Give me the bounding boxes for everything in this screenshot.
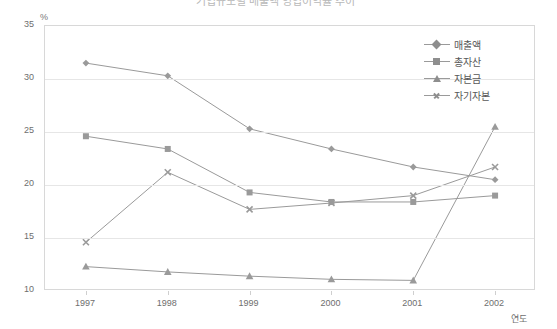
x-axis-tick-label: 2002 — [474, 298, 514, 308]
diamond-marker — [328, 146, 335, 153]
square-marker — [247, 189, 253, 195]
square-marker — [165, 146, 171, 152]
diamond-marker — [492, 176, 499, 183]
chart-root: 기업규모별 매출액 영업이익률 추이 % 101520253035 199719… — [0, 0, 557, 329]
legend-label: 매출액 — [450, 37, 481, 52]
diamond-icon — [424, 39, 450, 50]
y-axis-tick-label: 35 — [8, 19, 34, 29]
x-axis-tick-label: 1998 — [147, 298, 187, 308]
diamond-marker — [410, 164, 417, 171]
x-axis-tick-label: 1999 — [229, 298, 269, 308]
diamond-marker — [83, 60, 90, 67]
x-axis-tick-label: 1997 — [65, 298, 105, 308]
legend-label: 총자산 — [450, 54, 481, 69]
series-triangle — [82, 123, 499, 284]
series-x — [83, 164, 498, 245]
gridline — [45, 238, 534, 239]
x-axis-tick — [413, 291, 414, 295]
x-icon — [424, 90, 450, 101]
y-axis-tick-label: 20 — [8, 178, 34, 188]
legend-label: 자기자본 — [450, 88, 490, 103]
gridline — [45, 185, 534, 186]
triangle-icon — [424, 73, 450, 84]
x-marker — [492, 164, 498, 170]
legend-label: 자본금 — [450, 71, 481, 86]
x-axis-tick-label: 2000 — [310, 298, 350, 308]
y-axis-tick-label: 30 — [8, 72, 34, 82]
legend-item-maechulaek[interactable]: 매출액 — [424, 36, 532, 53]
legend-item-jabongeum[interactable]: 자본금 — [424, 70, 532, 87]
series-line — [86, 167, 495, 242]
triangle-marker — [82, 263, 90, 270]
square-marker — [83, 133, 89, 139]
series-square — [83, 133, 498, 205]
x-marker — [165, 169, 171, 175]
chart-title-clipped: 기업규모별 매출액 영업이익률 추이 — [0, 0, 557, 8]
y-axis-tick-label: 10 — [8, 284, 34, 294]
x-axis-tick — [86, 291, 87, 295]
y-axis-tick-label: 15 — [8, 231, 34, 241]
square-marker — [410, 199, 416, 205]
y-axis-tick-label: 25 — [8, 125, 34, 135]
legend-item-jagijabon[interactable]: 자기자본 — [424, 87, 532, 104]
x-axis-name: 연도 — [511, 312, 527, 325]
x-axis-tick — [168, 291, 169, 295]
square-icon — [424, 56, 450, 67]
series-line — [86, 136, 495, 202]
y-axis-unit-label: % — [40, 12, 48, 22]
x-axis-tick — [495, 291, 496, 295]
triangle-marker — [491, 123, 499, 130]
series-line — [86, 127, 495, 281]
chart-legend: 매출액 총자산 자본금 자기자본 — [424, 36, 532, 104]
legend-item-chongjasan[interactable]: 총자산 — [424, 53, 532, 70]
x-axis-tick — [331, 291, 332, 295]
square-marker — [492, 193, 498, 199]
gridline — [45, 132, 534, 133]
x-marker — [83, 239, 89, 245]
page-title: 기업규모별 매출액 영업이익률 추이 — [196, 0, 355, 8]
x-axis-tick-label: 2001 — [392, 298, 432, 308]
x-axis-tick — [250, 291, 251, 295]
